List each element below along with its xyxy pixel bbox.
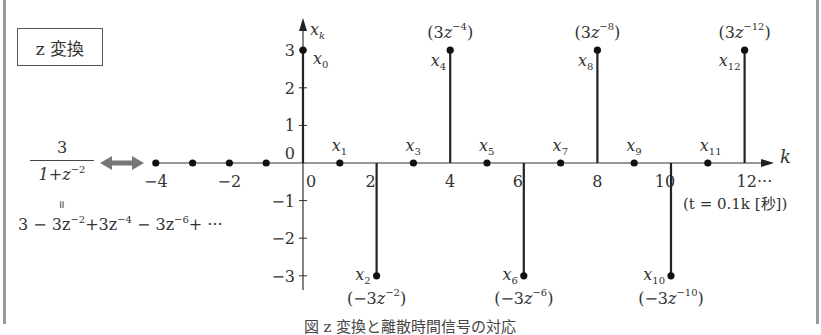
- point-label: x0: [313, 49, 328, 70]
- data-point: [520, 272, 527, 279]
- point-label: x11: [700, 136, 722, 157]
- data-point: [299, 47, 306, 54]
- data-point: [410, 159, 417, 166]
- chart-labels: x0x1x2(−3z−2)x3x4(3z−4)x5x6(−3z−6)x7x8(3…: [313, 21, 771, 308]
- y-tick-label: −2: [271, 229, 295, 248]
- data-point: [631, 159, 638, 166]
- z-term-label: (3z−12): [718, 21, 770, 42]
- point-label: x12: [719, 51, 741, 72]
- figure-caption: 図 z 変換と離散時間信号の対応: [200, 315, 620, 335]
- z-term-label: (−3z−10): [638, 287, 704, 308]
- data-point: [263, 159, 270, 166]
- x-tick-label: 8: [592, 172, 602, 191]
- point-label: x10: [643, 265, 665, 286]
- k-axis-label: k: [780, 146, 791, 167]
- x-tick-label: 2: [366, 172, 376, 191]
- y-tick-label: −3: [271, 267, 295, 286]
- z-term-label: (−3z−6): [494, 287, 553, 308]
- x-tick-label: −2: [218, 172, 242, 191]
- point-label: x6: [502, 265, 517, 286]
- x-tick-label: 6: [513, 172, 523, 191]
- z-term-label: (3z−4): [427, 21, 473, 42]
- point-label: x9: [626, 136, 641, 157]
- x-tick-label: 12···: [737, 172, 773, 191]
- double-arrow-icon: [100, 156, 144, 170]
- y-tick-label: 2: [285, 79, 295, 98]
- data-point: [189, 159, 196, 166]
- data-point: [226, 159, 233, 166]
- x-tick-label: 4: [445, 172, 455, 191]
- data-point: [483, 159, 490, 166]
- data-point: [447, 47, 454, 54]
- time-note: (t = 0.1k [秒]): [683, 195, 787, 213]
- y-tick-label: 3: [285, 41, 295, 60]
- data-point: [704, 159, 711, 166]
- point-label: x4: [431, 51, 446, 72]
- xk-axis-arrow-icon: [299, 18, 307, 31]
- x-tick-label: −4: [144, 172, 168, 191]
- x-tick-label: 10: [655, 172, 675, 191]
- chart-axes: kxk3210−1−2−3−4−2024681012···(t = 0.1k […: [144, 18, 791, 290]
- data-point: [557, 159, 564, 166]
- data-point: [667, 272, 674, 279]
- data-point: [336, 159, 343, 166]
- point-label: x8: [578, 51, 593, 72]
- data-point: [594, 47, 601, 54]
- point-label: x2: [355, 265, 370, 286]
- point-label: x3: [405, 136, 420, 157]
- x-tick-label: 0: [306, 172, 316, 191]
- y-tick-label: −1: [271, 192, 295, 211]
- z-term-label: (−3z−2): [347, 287, 406, 308]
- data-point: [373, 272, 380, 279]
- point-label: x7: [553, 136, 568, 157]
- data-point: [152, 159, 159, 166]
- data-point: [741, 47, 748, 54]
- y-tick-label: 0: [285, 144, 295, 163]
- point-label: x1: [332, 136, 347, 157]
- z-term-label: (3z−8): [574, 21, 620, 42]
- point-label: x5: [479, 136, 494, 157]
- k-axis-arrow-icon: [761, 159, 774, 167]
- y-tick-label: 1: [285, 116, 295, 135]
- xk-axis-label: xk: [310, 20, 325, 41]
